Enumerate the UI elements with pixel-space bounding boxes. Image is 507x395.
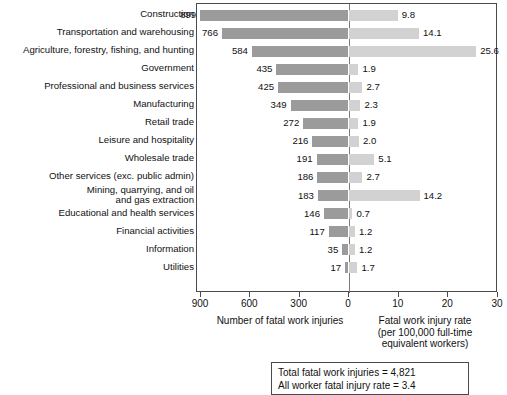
category-label: Retail trade xyxy=(0,117,194,128)
category-label: Information xyxy=(0,244,194,255)
value-label-injury-rate: 1.9 xyxy=(362,117,375,129)
chart-row: Agriculture, forestry, fishing, and hunt… xyxy=(0,42,507,60)
category-label: Wholesale trade xyxy=(0,153,194,164)
category-label: Manufacturing xyxy=(0,99,194,110)
bar-fatal-injuries xyxy=(324,208,348,219)
bar-fatal-injuries xyxy=(345,262,348,273)
bar-injury-rate xyxy=(349,28,419,39)
bar-fatal-injuries xyxy=(291,100,348,111)
category-label: Transportation and warehousing xyxy=(0,27,194,38)
value-label-injury-rate: 2.7 xyxy=(366,171,379,183)
value-label-injury-rate: 1.2 xyxy=(359,244,372,256)
value-label-injury-rate: 2.7 xyxy=(366,81,379,93)
axis-title-right: Fatal work injury rate (per 100,000 full… xyxy=(355,315,495,350)
bar-injury-rate xyxy=(349,154,374,165)
chart-row: Construction8999.8 xyxy=(0,6,507,24)
value-label-fatal-injuries: 899 xyxy=(156,9,196,21)
category-label: Leisure and hospitality xyxy=(0,135,194,146)
axis-tick-mark xyxy=(398,292,399,297)
bar-injury-rate xyxy=(349,262,357,273)
category-label: Utilities xyxy=(0,262,194,273)
summary-note-box: Total fatal work injuries = 4,821 All wo… xyxy=(271,362,469,395)
axis-tick-label: 10 xyxy=(378,298,418,310)
value-label-injury-rate: 25.6 xyxy=(480,45,499,57)
category-label: Government xyxy=(0,63,194,74)
value-label-fatal-injuries: 272 xyxy=(259,117,299,129)
value-label-injury-rate: 9.8 xyxy=(402,9,415,21)
bar-fatal-injuries xyxy=(317,154,348,165)
bar-fatal-injuries xyxy=(200,10,348,21)
bar-injury-rate xyxy=(349,190,420,201)
note-all-worker-rate: All worker fatal injury rate = 3.4 xyxy=(278,379,462,392)
category-label: Professional and business services xyxy=(0,81,194,92)
value-label-injury-rate: 14.2 xyxy=(424,190,443,202)
axis-tick-mark xyxy=(249,292,250,297)
axis-title-left: Number of fatal work injuries xyxy=(205,315,355,327)
bar-injury-rate xyxy=(349,82,362,93)
chart-row: Educational and health services1460.7 xyxy=(0,205,507,223)
chart-row: Manufacturing3492.3 xyxy=(0,96,507,114)
bar-injury-rate xyxy=(349,46,476,57)
value-label-fatal-injuries: 191 xyxy=(273,153,313,165)
value-label-injury-rate: 1.7 xyxy=(361,262,374,274)
axis-tick-mark xyxy=(497,292,498,297)
value-label-injury-rate: 2.0 xyxy=(363,135,376,147)
bar-fatal-injuries xyxy=(317,172,348,183)
axis-tick-mark xyxy=(200,292,201,297)
value-label-injury-rate: 0.7 xyxy=(356,208,369,220)
axis-tick-mark xyxy=(299,292,300,297)
bar-injury-rate xyxy=(349,64,358,75)
value-label-injury-rate: 2.3 xyxy=(364,99,377,111)
category-label: Financial activities xyxy=(0,226,194,237)
bar-injury-rate xyxy=(349,208,352,219)
chart-row: Utilities171.7 xyxy=(0,259,507,277)
bar-fatal-injuries xyxy=(318,190,348,201)
value-label-injury-rate: 1.2 xyxy=(359,226,372,238)
note-total-injuries: Total fatal work injuries = 4,821 xyxy=(278,366,462,379)
chart-row: Leisure and hospitality2162.0 xyxy=(0,132,507,150)
axis-tick-label: 30 xyxy=(477,298,507,310)
value-label-fatal-injuries: 766 xyxy=(178,27,218,39)
chart-row: Wholesale trade1915.1 xyxy=(0,150,507,168)
bar-injury-rate xyxy=(349,118,358,129)
value-label-fatal-injuries: 584 xyxy=(208,45,248,57)
bar-fatal-injuries xyxy=(342,244,348,255)
value-label-fatal-injuries: 183 xyxy=(274,190,314,202)
chart-row: Professional and business services4252.7 xyxy=(0,78,507,96)
bar-fatal-injuries xyxy=(276,64,348,75)
bar-injury-rate xyxy=(349,136,359,147)
value-label-fatal-injuries: 17 xyxy=(301,262,341,274)
chart-row: Retail trade2721.9 xyxy=(0,114,507,132)
value-label-fatal-injuries: 216 xyxy=(268,135,308,147)
axis-tick-mark xyxy=(447,292,448,297)
value-label-injury-rate: 1.9 xyxy=(362,63,375,75)
bar-injury-rate xyxy=(349,172,362,183)
category-label: Mining, quarrying, and oil and gas extra… xyxy=(0,185,194,206)
bar-injury-rate xyxy=(349,100,360,111)
bar-fatal-injuries xyxy=(329,226,348,237)
chart-row: Transportation and warehousing76614.1 xyxy=(0,24,507,42)
value-label-fatal-injuries: 117 xyxy=(285,226,325,238)
bar-fatal-injuries xyxy=(303,118,348,129)
value-label-injury-rate: 5.1 xyxy=(378,153,391,165)
value-label-fatal-injuries: 146 xyxy=(280,208,320,220)
axis-tick-label: 900 xyxy=(180,298,220,310)
chart-row: Mining, quarrying, and oil and gas extra… xyxy=(0,187,507,205)
chart-row: Information351.2 xyxy=(0,241,507,259)
bar-fatal-injuries xyxy=(252,46,348,57)
axis-tick-label: 20 xyxy=(427,298,467,310)
bar-fatal-injuries xyxy=(312,136,348,147)
value-label-fatal-injuries: 35 xyxy=(298,244,338,256)
category-label: Other services (exc. public admin) xyxy=(0,171,194,182)
category-label: Agriculture, forestry, fishing, and hunt… xyxy=(0,45,194,56)
value-label-fatal-injuries: 186 xyxy=(273,171,313,183)
value-label-fatal-injuries: 349 xyxy=(247,99,287,111)
bar-fatal-injuries xyxy=(278,82,348,93)
chart-row: Government4351.9 xyxy=(0,60,507,78)
value-label-fatal-injuries: 425 xyxy=(234,81,274,93)
category-label: Educational and health services xyxy=(0,208,194,219)
axis-tick-mark xyxy=(348,292,349,297)
chart-row: Financial activities1171.2 xyxy=(0,223,507,241)
value-label-fatal-injuries: 435 xyxy=(232,63,272,75)
